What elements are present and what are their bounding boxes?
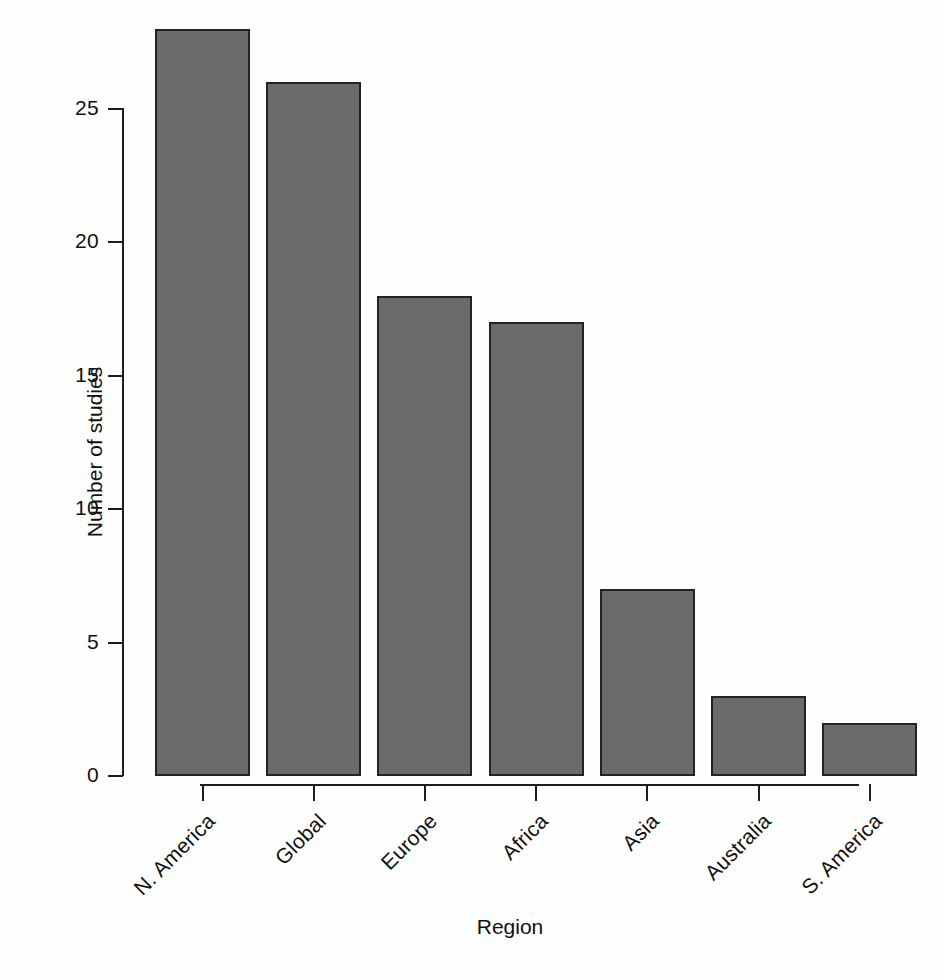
- bar: [155, 29, 250, 776]
- bar: [711, 696, 806, 776]
- y-axis-tick-label: 5: [55, 630, 99, 654]
- bar: [489, 322, 584, 776]
- plot-area: 0510152025 N. AmericaGlobalEuropeAfricaA…: [0, 0, 944, 980]
- y-axis-tick: [108, 375, 123, 377]
- x-axis-tick: [869, 784, 871, 801]
- y-axis-tick-label: 25: [55, 96, 99, 120]
- x-axis-tick: [535, 784, 537, 801]
- x-axis-tick: [646, 784, 648, 801]
- x-axis-tick: [313, 784, 315, 801]
- y-axis-title: Number of studies: [83, 302, 107, 602]
- x-axis-title: Region: [0, 915, 944, 939]
- x-axis-tick: [424, 784, 426, 801]
- y-axis-tick-label: 20: [55, 229, 99, 253]
- y-axis-tick: [108, 642, 123, 644]
- bar: [600, 589, 695, 776]
- x-axis-tick: [202, 784, 204, 801]
- bar: [377, 296, 472, 776]
- y-axis-tick: [108, 108, 123, 110]
- y-axis-tick-label: 0: [55, 763, 99, 787]
- bar: [822, 723, 917, 776]
- x-axis-title-text: Region: [477, 915, 544, 938]
- y-axis-tick: [108, 775, 123, 777]
- x-axis-tick-label: S. America: [686, 809, 887, 980]
- x-axis-line: [200, 784, 859, 786]
- y-axis-tick: [108, 508, 123, 510]
- y-axis-line: [122, 108, 124, 776]
- bar-chart-figure: 0510152025 N. AmericaGlobalEuropeAfricaA…: [0, 0, 944, 980]
- y-axis-tick: [108, 241, 123, 243]
- x-axis-tick: [758, 784, 760, 801]
- bar: [266, 82, 361, 776]
